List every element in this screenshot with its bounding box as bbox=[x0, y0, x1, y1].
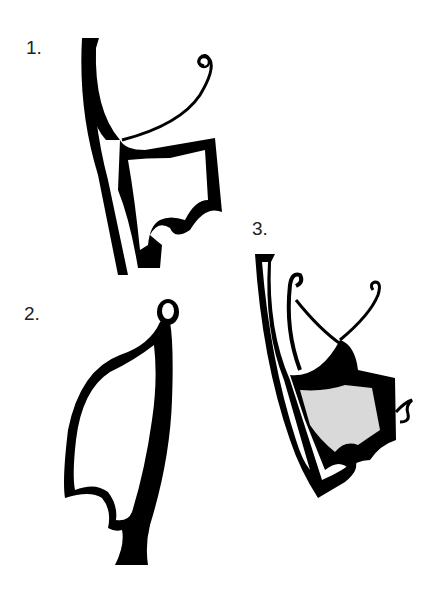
ink-illustration bbox=[0, 0, 435, 589]
figure-3-drawing bbox=[255, 254, 412, 498]
figure-2-drawing bbox=[64, 299, 179, 565]
figure-1-drawing bbox=[81, 38, 222, 275]
